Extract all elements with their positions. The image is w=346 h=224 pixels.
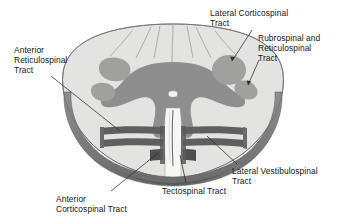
- label-lateral-corticospinal-tract: Lateral Corticospinal Tract: [210, 8, 320, 28]
- lateral-corticospinal-tract-blob: [212, 55, 246, 85]
- label-tectospinal-tract: Tectospinal Tract: [162, 186, 272, 196]
- central-canal: [168, 91, 177, 97]
- label-anterior-corticospinal-tract: Anterior Corticospinal Tract: [56, 194, 166, 214]
- spinal-cord-figure: Lateral Corticospinal Tract Rubrospinal …: [0, 0, 346, 224]
- label-rubrospinal-and-reticulospinal-tract: Rubrospinal and Reticulospinal Tract: [258, 33, 344, 64]
- label-anterior-reticulospinal-tract: Anterior Reticulospinal Tract: [14, 45, 94, 76]
- label-lateral-vestibulospinal-tract: Lateral Vestibulospinal Tract: [232, 166, 342, 186]
- anterior-median-fissure: [164, 108, 181, 178]
